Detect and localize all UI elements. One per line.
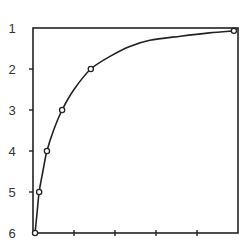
y-tick-label: 3 — [8, 103, 15, 118]
y-tick-label: 2 — [8, 62, 15, 77]
data-point-marker — [231, 28, 236, 33]
y-tick-label: 1 — [8, 21, 15, 36]
chart: 123456 — [0, 0, 251, 245]
plot-border — [33, 28, 238, 233]
y-tick-label: 5 — [8, 185, 15, 200]
data-point-marker — [37, 189, 42, 194]
data-markers — [32, 28, 236, 235]
data-point-marker — [60, 107, 65, 112]
plot-frame — [33, 28, 238, 233]
data-point-marker — [88, 66, 93, 71]
data-point-marker — [32, 230, 37, 235]
data-curve — [35, 31, 234, 233]
y-tick-label: 4 — [8, 144, 15, 159]
y-tick-label: 6 — [8, 226, 15, 241]
data-point-marker — [44, 148, 49, 153]
y-axis: 123456 — [8, 21, 33, 241]
